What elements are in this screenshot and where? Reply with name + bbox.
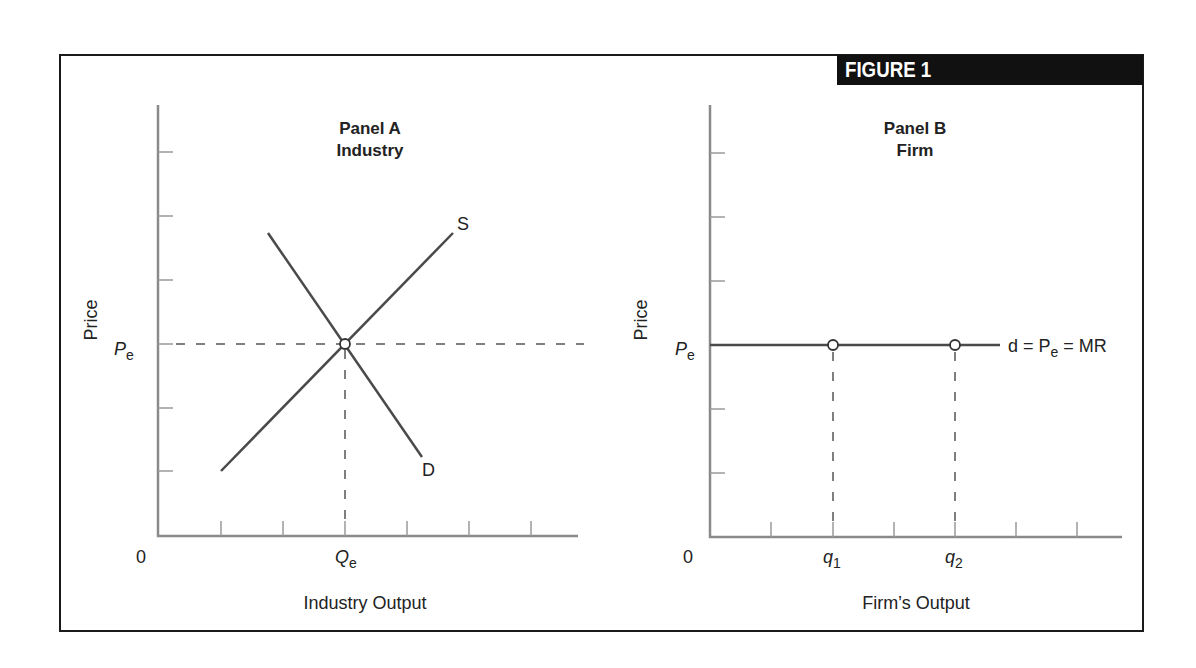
demand-label: D — [422, 460, 435, 480]
panel-b-x-axis-label: Firm’s Output — [862, 593, 970, 613]
panel-b-y-axis-label: Price — [631, 299, 651, 340]
supply-label: S — [457, 214, 469, 234]
panel-b-q2-label: q2 — [945, 547, 963, 571]
panel-a-title-line2: Industry — [336, 141, 404, 160]
equilibrium-point — [340, 339, 350, 349]
panel-b-title-line2: Firm — [897, 141, 934, 160]
panel-b-axes — [710, 105, 1122, 537]
figure: FIGURE 1 Panel A Industry — [0, 0, 1196, 668]
panel-a-qe-label: Qe — [335, 547, 357, 571]
panel-a-title-line1: Panel A — [339, 119, 401, 138]
panel-b-pe-label: Pe — [675, 339, 695, 363]
q2-point — [950, 340, 960, 350]
panel-b-q1-label: q1 — [823, 547, 841, 571]
panel-a-pe-label: Pe — [114, 339, 134, 363]
panel-a-origin: 0 — [136, 547, 146, 567]
panel-a-y-ticks — [158, 152, 173, 471]
panel-b-y-ticks — [710, 153, 725, 473]
firm-demand-label: d = Pe = MR — [1008, 336, 1107, 360]
panel-a-y-axis-label: Price — [81, 299, 101, 340]
panel-a: Panel A Industry — [81, 105, 584, 613]
panel-a-x-axis-label: Industry Output — [303, 593, 426, 613]
q1-point — [828, 340, 838, 350]
panel-b-x-ticks — [771, 522, 1077, 537]
panel-b-origin: 0 — [683, 547, 693, 567]
panel-a-x-ticks — [221, 521, 531, 536]
supply-curve — [221, 233, 453, 471]
panel-b-title-line1: Panel B — [884, 119, 946, 138]
panel-b: Panel B Firm d — [631, 105, 1122, 613]
